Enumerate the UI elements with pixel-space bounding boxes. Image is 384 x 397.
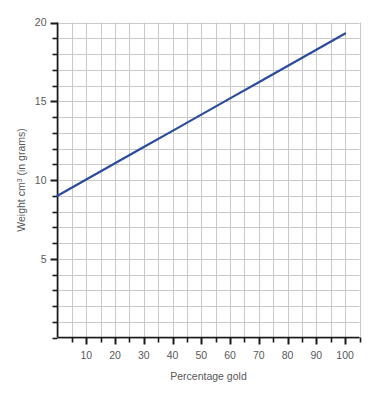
x-tick-label: 70 (253, 349, 265, 361)
x-tick-label: 100 (336, 349, 354, 361)
y-tick-label: 5 (41, 253, 47, 265)
y-tick-label: 10 (35, 174, 47, 186)
x-tick-label: 50 (195, 349, 207, 361)
y-tick-label: 20 (35, 16, 47, 28)
y-tick-label: 15 (35, 95, 47, 107)
x-tick-label: 60 (224, 349, 236, 361)
x-tick-label: 90 (311, 349, 323, 361)
x-tick-label: 80 (282, 349, 294, 361)
x-tick-label: 20 (109, 349, 121, 361)
x-tick-label: 40 (167, 349, 179, 361)
x-axis-title: Percentage gold (170, 370, 247, 382)
chart-container: 5101520102030405060708090100 Percentage … (0, 0, 384, 397)
x-tick-label: 10 (80, 349, 92, 361)
line-chart: 5101520102030405060708090100 Percentage … (0, 0, 384, 397)
x-tick-label: 30 (138, 349, 150, 361)
